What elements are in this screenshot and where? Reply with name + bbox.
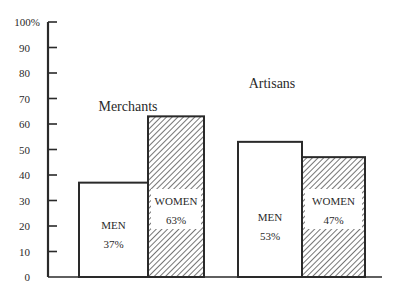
y-tick-label: 80 xyxy=(19,67,31,79)
y-tick-label: 90 xyxy=(19,42,31,54)
bar-value-label: 47% xyxy=(323,214,343,226)
y-tick-label: 10 xyxy=(19,246,31,258)
y-tick-label: 100% xyxy=(14,16,40,28)
bar-value-label: 63% xyxy=(166,214,186,226)
y-tick-label: 20 xyxy=(19,220,31,232)
y-tick-label: 30 xyxy=(19,195,31,207)
bar-series-label: WOMEN xyxy=(312,195,355,207)
bar-value-label: 37% xyxy=(103,238,123,250)
group-label-artisans: Artisans xyxy=(249,76,296,91)
bar-chart: 0102030405060708090100% MerchantsMEN37%W… xyxy=(0,0,396,298)
y-tick-label: 70 xyxy=(19,93,31,105)
y-tick-label: 60 xyxy=(19,118,31,130)
bar-series-label: MEN xyxy=(101,219,126,231)
group-label-merchants: Merchants xyxy=(98,99,157,114)
bar-value-label: 53% xyxy=(260,230,280,242)
bar-artisans-men xyxy=(238,142,302,277)
bar-series-label: MEN xyxy=(258,211,283,223)
y-tick-label: 50 xyxy=(19,144,31,156)
y-tick-label: 0 xyxy=(25,271,31,283)
y-tick-label: 40 xyxy=(19,169,31,181)
bar-series-label: WOMEN xyxy=(155,195,198,207)
bars: MerchantsMEN37%WOMEN63%ArtisansMEN53%WOM… xyxy=(79,76,365,277)
